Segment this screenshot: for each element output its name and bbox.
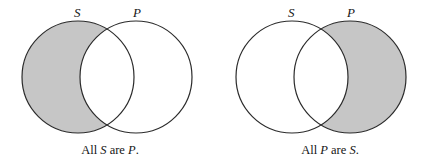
venn-svg-right: [220, 0, 440, 140]
circle-label-p: P: [347, 6, 355, 19]
caption-all-p-are-s: All P are S.: [220, 143, 440, 158]
circle-label-p: P: [133, 6, 141, 19]
venn-svg-left: [0, 0, 220, 140]
caption-middle: are: [107, 143, 129, 157]
circle-label-s: S: [288, 6, 295, 19]
caption-subject: P: [320, 143, 328, 157]
caption-suffix: .: [136, 143, 139, 157]
caption-middle: are: [328, 143, 350, 157]
shaded-region-s-only: [0, 0, 220, 140]
diagram-all-p-are-s: S P All P are S.: [220, 0, 440, 168]
circle-label-s: S: [74, 6, 81, 19]
caption-prefix: All: [301, 143, 320, 157]
caption-prefix: All: [81, 143, 100, 157]
caption-predicate: P: [128, 143, 136, 157]
diagram-all-s-are-p: S P All S are P.: [0, 0, 220, 168]
shaded-region-p-only: [220, 0, 440, 140]
caption-all-s-are-p: All S are P.: [0, 143, 220, 158]
venn-diagram-figure: S P All S are P. S P All P are S.: [0, 0, 440, 168]
caption-suffix: .: [356, 143, 359, 157]
